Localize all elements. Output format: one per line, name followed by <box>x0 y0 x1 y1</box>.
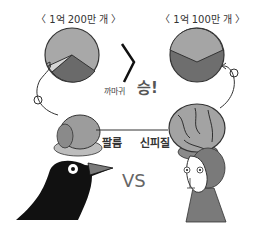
crow-neuron-pie <box>45 28 99 82</box>
crow-beak <box>88 163 113 175</box>
neocortex-label: 신피질 <box>140 134 170 150</box>
illustration <box>0 0 257 240</box>
crow-eye-pupil <box>71 167 75 171</box>
monkey-arrow-line <box>220 66 234 108</box>
monkey <box>184 148 226 222</box>
vs-label: VS <box>122 170 146 191</box>
crow-brain <box>54 115 102 156</box>
monkey-body <box>186 188 226 222</box>
monkey-neuron-pie <box>170 28 224 82</box>
winner-crow-label: 까마귀 <box>104 85 125 96</box>
greater-than-symbol <box>122 44 134 82</box>
pallium-label: 팔륨 <box>102 134 122 150</box>
winner-label: 승! <box>137 76 158 97</box>
monkey-arrow-loop <box>230 69 238 77</box>
crow <box>16 161 113 220</box>
